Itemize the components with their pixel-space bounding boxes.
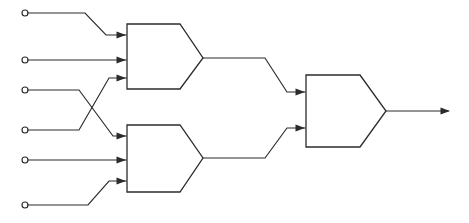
arrowhead-lower-gate-input-c bbox=[117, 177, 127, 184]
input-wire-group bbox=[28, 13, 126, 205]
wire-in6-to-lower-gate bbox=[28, 181, 126, 205]
input-terminal-in5[interactable] bbox=[22, 157, 28, 163]
input-terminal-group bbox=[22, 10, 28, 208]
arrowhead-output-gate-input-b bbox=[296, 124, 306, 131]
wire-upper-gate-to-output-gate bbox=[203, 58, 305, 92]
wire-in4-to-upper-gate-crossing bbox=[28, 78, 126, 130]
input-terminal-in4[interactable] bbox=[22, 127, 28, 133]
lower-gate-body[interactable] bbox=[127, 125, 203, 192]
wire-lower-gate-to-output-gate bbox=[203, 128, 305, 158]
arrowhead-output-gate-input-a bbox=[296, 88, 306, 95]
output-gate-body[interactable] bbox=[306, 75, 386, 147]
arrowhead-lower-gate-input-b bbox=[117, 156, 127, 163]
circuit-diagram-canvas bbox=[0, 0, 469, 223]
upper-gate-body[interactable] bbox=[127, 24, 203, 89]
arrowhead-upper-gate-input-c bbox=[117, 74, 127, 81]
arrowhead-upper-gate-input-a bbox=[117, 31, 127, 38]
logic-circuit-svg bbox=[0, 0, 469, 223]
arrowhead-upper-gate-input-b bbox=[117, 56, 127, 63]
input-terminal-in3[interactable] bbox=[22, 87, 28, 93]
intergate-wire-group bbox=[203, 58, 448, 158]
arrowhead-circuit-output bbox=[441, 107, 451, 114]
wire-in1-to-upper-gate bbox=[28, 13, 126, 35]
arrowhead-lower-gate-input-a bbox=[117, 132, 127, 139]
input-terminal-in6[interactable] bbox=[22, 202, 28, 208]
input-terminal-in2[interactable] bbox=[22, 57, 28, 63]
input-terminal-in1[interactable] bbox=[22, 10, 28, 16]
wire-in3-to-lower-gate-crossing bbox=[28, 90, 126, 136]
arrowhead-group bbox=[117, 31, 451, 184]
